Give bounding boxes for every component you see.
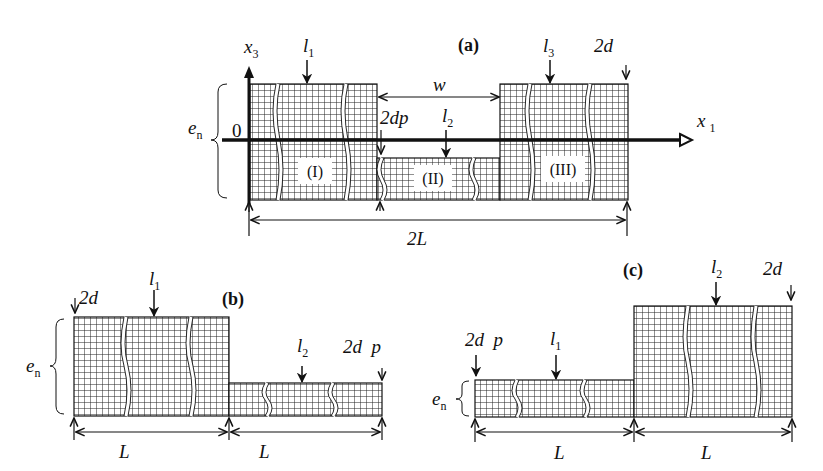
length-L-label-right: L <box>258 441 270 462</box>
region-III-block <box>500 84 628 200</box>
x3-axis-label: x3 <box>243 36 258 61</box>
panel-b-label: (b) <box>222 289 244 310</box>
x1-arrow-icon <box>680 134 692 146</box>
length-L-label-right: L <box>700 442 712 463</box>
length-L-label-left: L <box>553 442 565 463</box>
figure-canvas: (I) (II) (III) x3 x1 0 en l1 l2 l3 2d (a… <box>0 0 823 471</box>
length-L-label-left: L <box>118 441 130 462</box>
load-l1-label: l1 <box>550 328 561 353</box>
panel-c-label: (c) <box>623 260 643 281</box>
x3-arrow-icon <box>244 66 254 78</box>
region-I-label: (I) <box>307 163 323 181</box>
thick-block <box>634 306 792 417</box>
gap-w-label: w <box>433 74 446 95</box>
step-2dp-label: 2dp <box>380 107 409 128</box>
region-III-label: (III) <box>550 161 577 179</box>
x1-axis-label: x1 <box>696 110 715 135</box>
thin-block <box>475 380 634 417</box>
panel-a: (I) (II) (III) x3 x1 0 en l1 l2 l3 2d (a… <box>188 35 715 249</box>
load-l2-label: l2 <box>297 335 308 360</box>
period-2d-label: 2d <box>594 35 614 56</box>
period-2dp-label: 2d p <box>465 329 503 350</box>
period-2d-label: 2d <box>763 258 783 279</box>
thin-block <box>229 383 382 416</box>
thickness-brace <box>50 319 64 414</box>
thickness-label: en <box>432 388 446 413</box>
thick-block <box>74 317 229 416</box>
load-l3-label: l3 <box>543 35 554 60</box>
panel-a-label: (a) <box>458 35 479 56</box>
panel-c: en 2d p l1 (c) l2 2d L L <box>432 256 792 463</box>
load-l1-label: l1 <box>149 268 160 293</box>
thickness-label: en <box>188 117 202 142</box>
thickness-label: en <box>26 355 40 380</box>
region-II-label: (II) <box>422 170 443 188</box>
panel-b: en 2d l1 (b) l2 2d p L L <box>26 268 382 462</box>
load-l2-label: l2 <box>711 256 722 281</box>
load-l2-label: l2 <box>442 105 453 130</box>
thickness-brace <box>456 381 469 416</box>
origin-label: 0 <box>232 120 242 141</box>
period-2d-label: 2d <box>79 287 99 308</box>
period-2dp-label: 2d p <box>343 336 381 357</box>
length-2L-label: 2L <box>407 228 427 249</box>
load-l1-label: l1 <box>303 35 314 60</box>
